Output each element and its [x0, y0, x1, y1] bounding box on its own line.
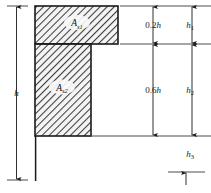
overall-height-label: h: [14, 88, 19, 98]
dimension-h1-subscript: 1: [191, 24, 194, 31]
dimension-label-0-6h: 0.6h: [145, 85, 161, 95]
dimension-label-h2: h2: [186, 85, 194, 96]
area-label-as2-group: As2: [49, 80, 75, 95]
area-as1-subscript: s1: [77, 23, 83, 30]
area-label-as1-group: As1: [64, 15, 90, 30]
dimension-column-outer: h1 h2 h3: [186, 7, 194, 185]
overall-height-symbol: h: [14, 88, 19, 98]
dimension-0-2h-number: 0.2: [145, 20, 156, 30]
dimension-column-inner: 0.2h 0.6h: [145, 7, 161, 135]
dimension-0-2h-symbol: h: [156, 20, 161, 30]
dimension-0-6h-number: 0.6: [145, 85, 157, 95]
area-as2-subscript: s2: [62, 87, 69, 94]
dimension-label-0-2h: 0.2h: [145, 20, 161, 30]
dimension-h3-subscript: 3: [191, 153, 194, 160]
dimension-overall-h: h: [7, 6, 28, 180]
dimension-h2-subscript: 2: [191, 89, 194, 96]
dimension-label-h3: h3: [186, 149, 194, 160]
dimension-label-h1: h1: [186, 20, 194, 31]
diagram-canvas: h 0.2h 0.6h h1 h2 h3: [0, 0, 211, 193]
dimension-0-6h-symbol: h: [156, 85, 161, 95]
cross-section-diagram: h 0.2h 0.6h h1 h2 h3: [0, 0, 211, 193]
